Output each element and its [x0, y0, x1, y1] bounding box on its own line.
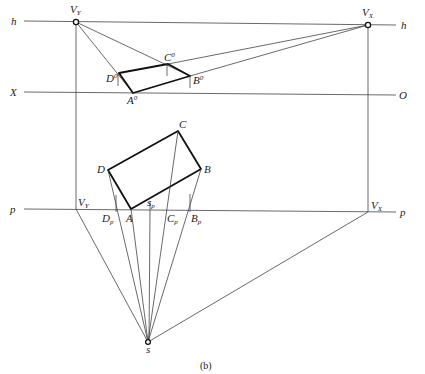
picture-plane-label-left: p	[9, 203, 16, 215]
label-vx: VX	[362, 6, 374, 20]
horizon-line	[24, 21, 396, 25]
label-d: D	[96, 163, 105, 175]
perspective-rectangle	[119, 64, 190, 93]
vanishing-point-vy	[73, 19, 78, 24]
label-c0: C0	[164, 51, 175, 63]
c-to-s	[148, 131, 178, 342]
picture-plane-line	[24, 209, 396, 212]
figure-caption: (b)	[200, 360, 212, 372]
label-c: C	[179, 118, 187, 130]
label-cp: Cp	[167, 212, 178, 226]
horizon-label-right: h	[401, 19, 407, 31]
vx-plan-to-s	[148, 212, 368, 342]
vy-to-b0	[76, 22, 190, 76]
d-to-s	[108, 170, 148, 342]
label-sp: sp	[147, 196, 155, 210]
vx-to-a0	[190, 25, 368, 76]
vy-plan-to-s	[76, 209, 148, 342]
label-s: s	[146, 343, 150, 355]
sp-to-s	[149, 209, 150, 342]
vanishing-point-vx	[365, 22, 370, 27]
label-d0: D0	[105, 72, 118, 84]
picture-plane-label-right: p	[399, 206, 406, 218]
ground-line	[24, 92, 396, 95]
label-vy: VY	[70, 3, 82, 17]
horizon-label-left: h	[11, 15, 17, 27]
label-b: B	[204, 163, 211, 175]
a-to-s	[131, 209, 148, 342]
perspective-diagram: h h X O p p D0 C0 B0 A0 D C B A VY VX D	[0, 0, 425, 374]
label-bp: Bp	[191, 212, 202, 226]
label-vy-plan: VY	[78, 196, 90, 210]
label-dp: Dp	[101, 212, 114, 226]
vx-to-d0	[168, 25, 368, 64]
label-vx-plan: VX	[371, 199, 383, 213]
plan-rectangle	[108, 131, 201, 209]
ground-label-x: X	[9, 86, 18, 98]
label-b0: B0	[193, 74, 204, 86]
ground-label-o: O	[399, 89, 407, 101]
label-a0: A0	[126, 94, 138, 106]
